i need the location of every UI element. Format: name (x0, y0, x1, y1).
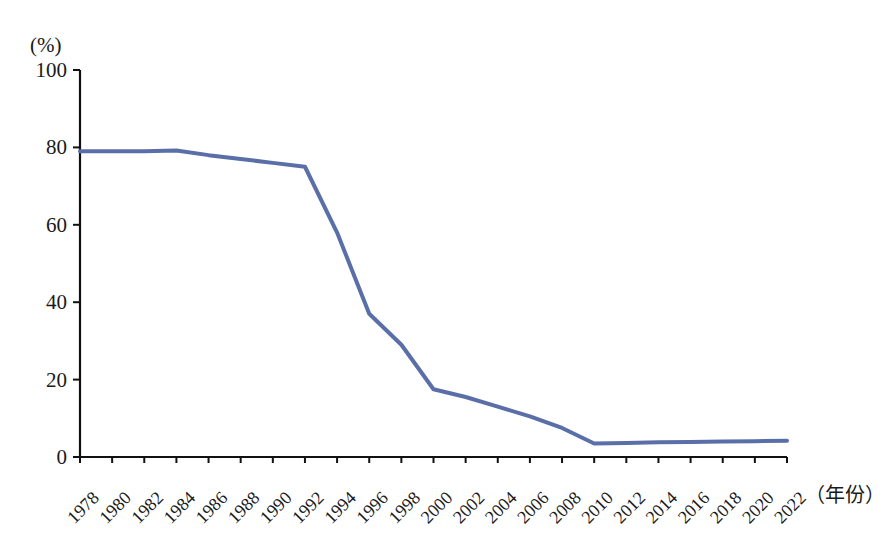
x-tick-label: 1992 (288, 488, 328, 528)
x-tick-label: 1998 (385, 488, 425, 528)
x-tick-label: 1984 (160, 488, 200, 528)
series-line-0 (80, 150, 787, 443)
x-tick-label: 2014 (642, 488, 682, 528)
x-tick-label: 2000 (417, 488, 457, 528)
x-tick-label: 1980 (95, 488, 135, 528)
y-tick-label: 80 (46, 135, 67, 159)
x-tick-label: 1988 (224, 488, 264, 528)
x-tick-label: 2008 (545, 488, 585, 528)
x-axis-title: （年份） (805, 484, 885, 506)
chart-canvas: (%) 020406080100 19781980198219841986198… (0, 0, 890, 544)
x-tick-label: 1978 (63, 488, 103, 528)
x-tick-label: 2016 (674, 488, 714, 528)
x-tick-label: 2018 (706, 488, 746, 528)
x-tick-label: 2010 (577, 488, 617, 528)
line-chart: (%) 020406080100 19781980198219841986198… (0, 0, 890, 544)
x-tick-label: 2022 (770, 488, 810, 528)
x-tick-label: 2020 (738, 488, 778, 528)
y-tick-label: 100 (36, 58, 68, 82)
x-tick-label: 1986 (192, 488, 232, 528)
y-tick-label: 20 (46, 368, 67, 392)
data-series-group (80, 150, 787, 443)
x-tick-label: 1982 (128, 488, 168, 528)
x-tick-label: 1996 (352, 488, 392, 528)
y-tick-label: 60 (46, 213, 67, 237)
x-tick-label: 2012 (610, 488, 650, 528)
x-tick-label: 1990 (256, 488, 296, 528)
x-tick-label: 2006 (513, 488, 553, 528)
y-tick-label: 0 (57, 445, 68, 469)
y-tick-label: 40 (46, 290, 67, 314)
x-axis-ticks: 1978198019821984198619881990199219941996… (63, 457, 810, 527)
y-axis-unit-label: (%) (30, 33, 61, 57)
x-tick-label: 2002 (449, 488, 489, 528)
y-axis-ticks: 020406080100 (36, 58, 81, 469)
x-tick-label: 2004 (481, 488, 521, 528)
x-tick-label: 1994 (320, 488, 360, 528)
